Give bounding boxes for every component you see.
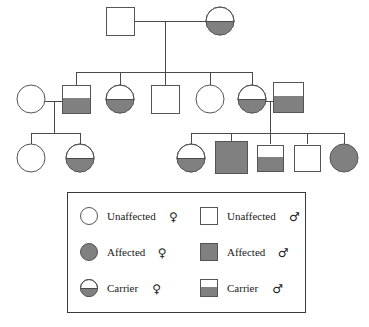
legend-label-affected-male: Affected bbox=[227, 246, 266, 258]
carrier-fill bbox=[106, 99, 134, 113]
individual-I-2 bbox=[206, 7, 234, 35]
carrier-fill bbox=[66, 158, 94, 172]
carrier-fill bbox=[258, 157, 283, 171]
symbol-circle bbox=[196, 85, 224, 113]
individual-II-5 bbox=[196, 85, 224, 113]
individual-II-6 bbox=[238, 85, 266, 113]
carrier-fill bbox=[274, 96, 303, 112]
carrier-fill bbox=[63, 98, 90, 113]
legend-sex-symbol-carrier-female: ♀ bbox=[152, 282, 161, 296]
individual-II-4 bbox=[151, 85, 179, 113]
symbol-square bbox=[201, 244, 218, 261]
individual-III-6 bbox=[294, 145, 320, 171]
symbol-square bbox=[215, 141, 247, 173]
symbol-square bbox=[294, 145, 320, 171]
individual-II-2 bbox=[62, 85, 90, 113]
legend-label-carrier-male: Carrier bbox=[227, 282, 258, 294]
individual-III-1 bbox=[17, 144, 45, 172]
legend-sex-symbol-carrier-male: ♂ bbox=[272, 282, 283, 296]
legend-sex-symbol-unaffected-male: ♂ bbox=[289, 210, 300, 224]
symbol-circle bbox=[81, 244, 98, 261]
legend-label-carrier-female: Carrier bbox=[107, 282, 138, 294]
legend-sex-symbol-affected-male: ♂ bbox=[278, 246, 289, 260]
pedigree-diagram: Unaffected♀Affected♀Carrier♀Unaffected♂A… bbox=[0, 0, 369, 327]
carrier-fill bbox=[81, 288, 98, 297]
symbol-square bbox=[151, 85, 179, 113]
individual-symbol-layer bbox=[17, 7, 358, 173]
symbol-circle bbox=[81, 208, 98, 225]
individual-II-7 bbox=[273, 82, 303, 112]
carrier-fill bbox=[177, 158, 205, 172]
individual-II-1 bbox=[17, 85, 45, 113]
legend-label-unaffected-female: Unaffected bbox=[107, 210, 156, 222]
legend-label-unaffected-male: Unaffected bbox=[227, 210, 276, 222]
symbol-circle bbox=[17, 144, 45, 172]
symbol-circle bbox=[330, 144, 358, 172]
legend-sex-symbol-unaffected-female: ♀ bbox=[169, 210, 178, 224]
legend-symbol-unaffected-female bbox=[81, 208, 98, 225]
legend-label-affected-female: Affected bbox=[107, 246, 146, 258]
legend-symbol-carrier-male bbox=[201, 280, 218, 297]
legend-symbol-unaffected-male bbox=[201, 208, 218, 225]
symbol-square bbox=[201, 208, 218, 225]
carrier-fill bbox=[238, 99, 266, 113]
individual-III-4 bbox=[215, 141, 247, 173]
legend-layer: Unaffected♀Affected♀Carrier♀Unaffected♂A… bbox=[67, 192, 305, 312]
legend-symbol-affected-male bbox=[201, 244, 218, 261]
individual-III-2 bbox=[66, 144, 94, 172]
individual-III-7 bbox=[330, 144, 358, 172]
individual-III-3 bbox=[177, 144, 205, 172]
legend-symbol-affected-female bbox=[81, 244, 98, 261]
individual-I-1 bbox=[106, 7, 134, 35]
individual-III-5 bbox=[257, 145, 283, 171]
legend-symbol-carrier-female bbox=[81, 280, 98, 297]
symbol-square bbox=[106, 7, 134, 35]
individual-II-3 bbox=[106, 85, 134, 113]
legend-sex-symbol-affected-female: ♀ bbox=[158, 246, 167, 260]
pedigree-chart: Unaffected♀Affected♀Carrier♀Unaffected♂A… bbox=[0, 0, 369, 327]
carrier-fill bbox=[206, 21, 234, 35]
symbol-circle bbox=[17, 85, 45, 113]
carrier-fill bbox=[201, 287, 217, 296]
